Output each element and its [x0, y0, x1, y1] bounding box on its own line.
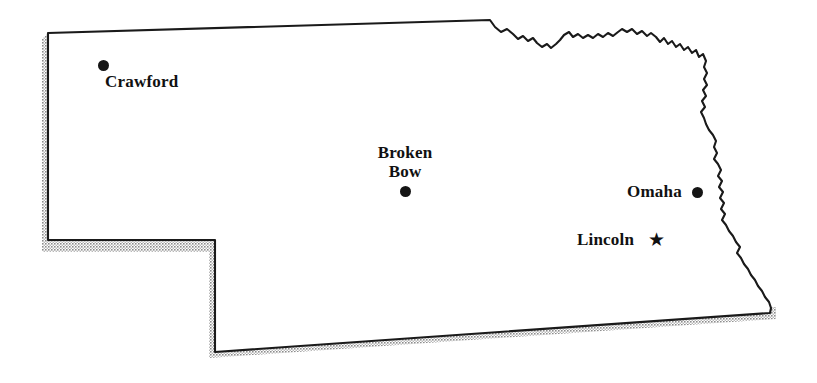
- shadow-panhandle-edge: [42, 246, 209, 252]
- city-label-broken-bow-line-2: Bow: [355, 162, 455, 181]
- city-label-omaha-line-1: Omaha: [627, 182, 682, 201]
- city-label-broken-bow-line-1: Broken: [355, 143, 455, 162]
- city-label-omaha: Omaha: [627, 182, 682, 201]
- city-marker-broken-bow[interactable]: [400, 186, 411, 197]
- city-marker-crawford[interactable]: [98, 60, 109, 71]
- city-label-broken-bow: Broken Bow: [355, 143, 455, 181]
- city-label-crawford: Crawford: [105, 72, 178, 91]
- nebraska-map-container: Crawford Broken Bow Omaha Lincoln ★: [0, 0, 817, 383]
- city-label-lincoln-line-1: Lincoln: [577, 230, 634, 249]
- city-label-lincoln: Lincoln: [577, 230, 634, 249]
- city-marker-lincoln-capital-star[interactable]: ★: [648, 230, 665, 249]
- city-label-crawford-line-1: Crawford: [105, 72, 178, 91]
- city-marker-omaha[interactable]: [692, 187, 703, 198]
